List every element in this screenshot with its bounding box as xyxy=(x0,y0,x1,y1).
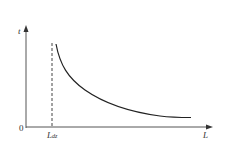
x-axis-label: L xyxy=(203,131,208,140)
y-axis-arrow-icon xyxy=(24,25,29,32)
origin-label: 0 xyxy=(19,124,24,133)
x-axis xyxy=(26,125,213,130)
chart-canvas xyxy=(0,0,231,150)
ldz-label: Ldz xyxy=(47,131,57,140)
x-axis-arrow-icon xyxy=(206,125,213,130)
y-axis-label: t xyxy=(18,27,21,36)
t-curve xyxy=(56,44,191,118)
y-axis xyxy=(24,25,29,128)
ldz-label-subscript: dz xyxy=(52,133,57,139)
